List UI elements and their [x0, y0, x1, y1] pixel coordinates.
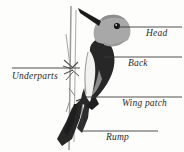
bill: [78, 8, 101, 26]
label-head: Head: [146, 29, 167, 39]
label-rump: Rump: [106, 133, 129, 143]
eye: [114, 23, 120, 29]
label-wing-patch: Wing patch: [122, 99, 167, 109]
label-underparts: Underparts: [12, 72, 58, 82]
label-back: Back: [128, 59, 148, 69]
head: [94, 15, 131, 47]
bird-anatomy-figure: Head Back Wing patch Underparts Rump: [0, 0, 184, 152]
